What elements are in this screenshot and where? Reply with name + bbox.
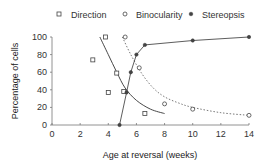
legend-item-binocularity: Binocularity [123, 10, 183, 20]
stereopsis-point [118, 123, 121, 126]
x-tick-label: 12 [216, 129, 226, 139]
legend-label-binocularity: Binocularity [136, 10, 183, 20]
binocularity-point [163, 102, 167, 106]
stereopsis-point [191, 39, 194, 42]
square-marker-icon [57, 12, 61, 16]
direction-point [91, 58, 95, 62]
stereopsis-line [120, 37, 249, 125]
plot-area [91, 35, 251, 127]
legend-label-direction: Direction [71, 10, 107, 20]
x-axis-title: Age at reversal (weeks) [103, 150, 198, 160]
y-ticks: 020406080100 [32, 32, 52, 130]
x-tick-label: 10 [188, 129, 198, 139]
binocularity-point [137, 66, 141, 70]
x-tick-label: 8 [162, 129, 167, 139]
stereopsis-point [125, 91, 128, 94]
y-tick-label: 100 [32, 32, 47, 42]
stereopsis-point [247, 35, 250, 38]
y-tick-label: 80 [37, 50, 47, 60]
x-tick-label: 14 [244, 129, 254, 139]
direction-point [106, 90, 110, 94]
y-tick-label: 60 [37, 67, 47, 77]
direction-fit-curve [100, 37, 165, 114]
chart: Direction Binocularity Stereopsis 020406… [0, 0, 263, 168]
stereopsis-point [129, 71, 132, 74]
stereopsis-point [143, 43, 146, 46]
y-tick-label: 0 [42, 120, 47, 130]
x-tick-label: 2 [78, 129, 83, 139]
x-tick-label: 6 [134, 129, 139, 139]
filled-circle-marker-icon [189, 12, 193, 16]
direction-point [103, 35, 107, 39]
open-circle-marker-icon [123, 12, 127, 16]
stereopsis-point [135, 53, 138, 56]
direction-point [143, 112, 147, 116]
direction-point [115, 71, 119, 75]
binocularity-point [247, 113, 251, 117]
binocularity-point [123, 35, 127, 39]
legend-label-stereopsis: Stereopsis [202, 10, 245, 20]
legend-item-direction: Direction [57, 10, 107, 20]
binocularity-point [191, 107, 195, 111]
x-tick-label: 4 [106, 129, 111, 139]
y-tick-label: 40 [37, 85, 47, 95]
x-tick-label: 0 [49, 129, 54, 139]
legend: Direction Binocularity Stereopsis [57, 10, 245, 20]
y-tick-label: 20 [37, 102, 47, 112]
legend-item-stereopsis: Stereopsis [189, 10, 245, 20]
y-axis-title: Percentage of cells [10, 42, 20, 119]
